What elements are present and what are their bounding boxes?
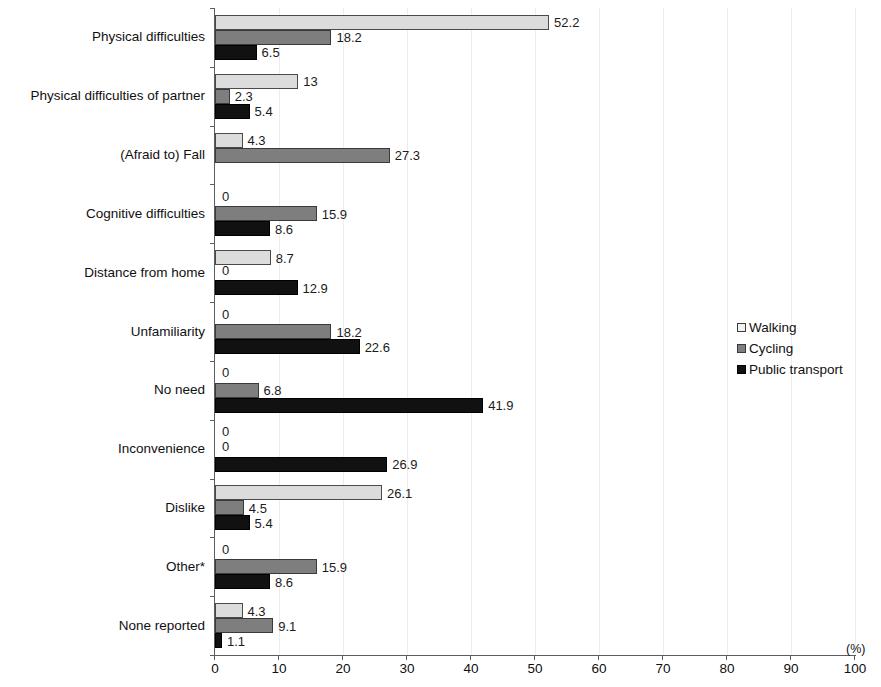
bar-cycling[interactable] (215, 206, 317, 221)
bar-group: 0026.9 (215, 427, 855, 472)
bar-row: 5.4 (215, 515, 855, 530)
x-axis-tick-label: 50 (527, 662, 542, 676)
y-axis-tick (210, 596, 215, 597)
bar-value-label: 8.6 (270, 222, 293, 235)
bar-value-label: 15.9 (317, 207, 347, 220)
bar-transport[interactable] (215, 457, 387, 472)
bar-row: 4.3 (215, 603, 855, 618)
bar-value-label: 4.3 (243, 134, 266, 147)
bar-walking[interactable] (215, 15, 549, 30)
category-label: Other* (0, 560, 205, 574)
bar-row: 4.5 (215, 500, 855, 515)
x-axis-tick (470, 655, 471, 660)
bar-row: 1.1 (215, 633, 855, 648)
legend-item-cycling[interactable]: Cycling (737, 338, 877, 359)
x-axis-tick (406, 655, 407, 660)
legend-item-transport[interactable]: Public transport (737, 359, 877, 380)
x-axis-line (214, 655, 856, 656)
legend-item-walking[interactable]: Walking (737, 317, 877, 338)
bar-row: 12.9 (215, 280, 855, 295)
bar-value-label: 6.8 (259, 384, 282, 397)
bar-group: 015.98.6 (215, 544, 855, 589)
x-axis-tick-label: 60 (591, 662, 606, 676)
bar-row: 52.2 (215, 15, 855, 30)
bar-group: 132.35.4 (215, 74, 855, 119)
bar-cycling[interactable] (215, 89, 230, 104)
bar-value-label: 18.2 (331, 31, 361, 44)
bar-value-label: 1.1 (222, 634, 245, 647)
bar-group: 4.39.11.1 (215, 603, 855, 648)
bar-value-label: 18.2 (331, 325, 361, 338)
category-label: Inconvenience (0, 442, 205, 456)
x-axis-tick-label: 90 (783, 662, 798, 676)
bar-value-label: 12.9 (298, 281, 328, 294)
bar-cycling[interactable] (215, 500, 244, 515)
bar-value-label: 9.1 (273, 619, 296, 632)
legend-swatch-icon (737, 344, 746, 353)
bar-value-label: 26.1 (382, 486, 412, 499)
bar-transport[interactable] (215, 104, 250, 119)
x-axis-tick (790, 655, 791, 660)
bar-row: 15.9 (215, 559, 855, 574)
x-axis-tick-label: 20 (335, 662, 350, 676)
bar-value-label: 6.5 (257, 46, 280, 59)
bar-cycling[interactable] (215, 618, 273, 633)
bar-row: 0 (215, 442, 855, 457)
bar-row (215, 163, 855, 178)
bar-row: 8.6 (215, 574, 855, 589)
y-axis-tick (210, 184, 215, 185)
bar-transport[interactable] (215, 339, 360, 354)
legend-label: Walking (749, 321, 797, 335)
x-axis-tick (278, 655, 279, 660)
bar-row: 5.4 (215, 104, 855, 119)
bar-transport[interactable] (215, 45, 257, 60)
bar-value-label: 15.9 (317, 560, 347, 573)
bar-cycling[interactable] (215, 148, 390, 163)
category-label: Physical difficulties (0, 31, 205, 45)
bar-cycling[interactable] (215, 30, 331, 45)
legend-label: Public transport (749, 363, 843, 377)
bar-transport[interactable] (215, 515, 250, 530)
bar-value-label: 2.3 (230, 90, 253, 103)
bar-walking[interactable] (215, 603, 243, 618)
bar-walking[interactable] (215, 74, 298, 89)
bar-value-label: 52.2 (549, 16, 579, 29)
bar-cycling[interactable] (215, 324, 331, 339)
x-axis-tick-labels: 0102030405060708090100 (215, 662, 855, 682)
category-label: Distance from home (0, 266, 205, 280)
bar-row: 9.1 (215, 618, 855, 633)
bar-value-label: 8.6 (270, 575, 293, 588)
legend: WalkingCyclingPublic transport (737, 317, 877, 380)
bar-row: 0 (215, 265, 855, 280)
x-axis-tick-label: 30 (399, 662, 414, 676)
bar-row: 4.3 (215, 133, 855, 148)
bar-transport[interactable] (215, 574, 270, 589)
bar-transport[interactable] (215, 633, 222, 648)
bar-row: 6.8 (215, 383, 855, 398)
bar-value-label: 0 (217, 366, 229, 379)
bar-walking[interactable] (215, 485, 382, 500)
x-axis-tick-label: 40 (463, 662, 478, 676)
category-label: (Afraid to) Fall (0, 148, 205, 162)
bar-value-label: 8.7 (271, 251, 294, 264)
bar-value-label: 22.6 (360, 340, 390, 353)
y-axis-tick (210, 67, 215, 68)
x-axis-tick-label: 0 (211, 662, 219, 676)
bar-transport[interactable] (215, 221, 270, 236)
category-label: Cognitive difficulties (0, 207, 205, 221)
bar-transport[interactable] (215, 280, 298, 295)
bar-row: 8.7 (215, 250, 855, 265)
bar-walking[interactable] (215, 133, 243, 148)
bar-group: 015.98.6 (215, 191, 855, 236)
bar-transport[interactable] (215, 398, 483, 413)
bar-cycling[interactable] (215, 383, 259, 398)
x-axis-tick (214, 655, 215, 660)
bar-cycling[interactable] (215, 559, 317, 574)
x-axis-tick (598, 655, 599, 660)
legend-label: Cycling (749, 342, 793, 356)
bar-chart: Physical difficultiesPhysical difficulti… (0, 0, 881, 687)
y-axis-tick (210, 126, 215, 127)
bar-group: 26.14.55.4 (215, 485, 855, 530)
x-axis-unit-label: (%) (846, 643, 865, 656)
bar-row: 27.3 (215, 148, 855, 163)
